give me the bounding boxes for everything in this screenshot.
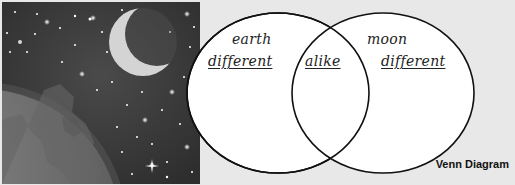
left-region-label: different (208, 53, 272, 69)
left-circle-title: earth (232, 31, 271, 47)
right-circle-title: moon (367, 31, 407, 47)
right-region-label: different (381, 53, 445, 69)
diagram-caption: Venn Diagram (436, 158, 509, 170)
overlap-region-label: alike (305, 53, 341, 69)
